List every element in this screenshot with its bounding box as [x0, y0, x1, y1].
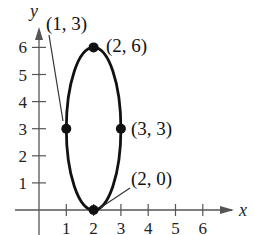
- point-marker: [89, 42, 99, 52]
- y-tick-label: 6: [19, 38, 28, 57]
- y-axis-label: y: [28, 1, 38, 21]
- y-tick-label: 5: [19, 66, 28, 85]
- ellipse-plot: x y 123456 123456 (1, 3)(2, 6)(3, 3)(2, …: [0, 0, 254, 235]
- x-tick-label: 5: [171, 219, 180, 235]
- label-leader-lines: [49, 35, 130, 208]
- x-axis-label: x: [238, 200, 247, 220]
- x-tick-label: 2: [89, 219, 98, 235]
- x-tick-label: 1: [62, 219, 71, 235]
- labeled-points: (1, 3)(2, 6)(3, 3)(2, 0): [46, 13, 172, 215]
- ellipse-curve: [66, 47, 121, 210]
- y-tick-label: 3: [19, 120, 28, 139]
- y-ticks: 123456: [19, 38, 47, 193]
- point-label: (1, 3): [46, 13, 87, 35]
- point-label: (3, 3): [131, 118, 172, 140]
- y-tick-label: 1: [19, 174, 28, 193]
- x-ticks: 123456: [62, 204, 207, 235]
- point-marker: [116, 124, 126, 134]
- point-marker: [61, 124, 71, 134]
- y-axis-arrow-icon: [35, 27, 43, 40]
- x-tick-label: 3: [117, 219, 126, 235]
- leader-line: [100, 188, 130, 208]
- x-tick-label: 4: [144, 219, 153, 235]
- y-tick-label: 2: [19, 147, 28, 166]
- point-label: (2, 0): [131, 168, 172, 190]
- point-marker: [89, 205, 99, 215]
- x-tick-label: 6: [199, 219, 208, 235]
- y-tick-label: 4: [19, 93, 28, 112]
- ellipse: [66, 47, 121, 210]
- leader-line: [49, 35, 63, 121]
- point-label: (2, 6): [106, 35, 147, 57]
- x-axis-arrow-icon: [220, 206, 234, 214]
